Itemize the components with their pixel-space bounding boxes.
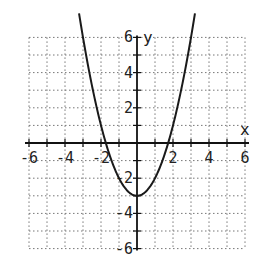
x-tick-label: 4 bbox=[204, 149, 213, 167]
y-tick-label: -6 bbox=[115, 240, 133, 258]
x-axis-label: x bbox=[240, 120, 250, 139]
x-tick-label: -6 bbox=[20, 149, 38, 167]
y-tick-label: 2 bbox=[124, 99, 133, 117]
y-tick-label: 6 bbox=[124, 28, 133, 46]
y-tick-label: -4 bbox=[115, 204, 133, 222]
parabola-graph: -6-4-2246642-2-4-6 x y bbox=[0, 0, 259, 270]
y-axis-label: y bbox=[143, 28, 153, 47]
y-tick-label: -2 bbox=[115, 169, 133, 187]
x-tick-label: 6 bbox=[240, 149, 249, 167]
x-tick-label: 2 bbox=[168, 149, 177, 167]
y-tick-label: 4 bbox=[124, 64, 133, 82]
axes bbox=[25, 35, 249, 250]
x-tick-label: -4 bbox=[56, 149, 74, 167]
x-tick-label: -2 bbox=[92, 149, 110, 167]
